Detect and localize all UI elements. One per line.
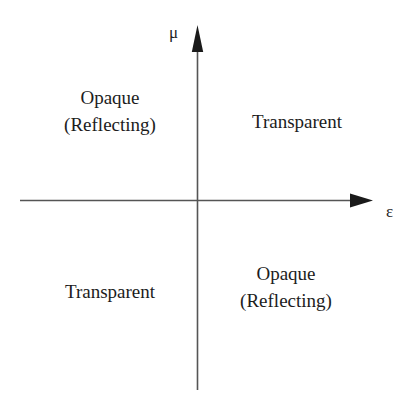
quadrant-label-lower-left: Transparent	[65, 279, 155, 306]
quadrant-label-upper-left-line-1: Opaque	[64, 85, 156, 112]
quadrant-label-upper-left: Opaque (Reflecting)	[64, 85, 156, 139]
quadrant-label-upper-right: Transparent	[252, 109, 342, 136]
axes-group	[0, 0, 415, 406]
mu-axis-label: μ	[169, 24, 178, 41]
mu-axis-arrowhead	[192, 25, 203, 52]
quadrant-label-lower-left-line-1: Transparent	[65, 279, 155, 306]
epsilon-axis-label: ε	[386, 203, 393, 220]
epsilon-axis-arrowhead	[350, 194, 373, 208]
quadrant-label-upper-right-line-1: Transparent	[252, 109, 342, 136]
quadrant-label-lower-right-line-1: Opaque	[240, 261, 332, 288]
quadrant-label-lower-right-line-2: (Reflecting)	[240, 288, 332, 315]
quadrant-label-upper-left-line-2: (Reflecting)	[64, 112, 156, 139]
figure-canvas: μ ε Opaque (Reflecting) Transparent Tran…	[0, 0, 415, 406]
quadrant-label-lower-right: Opaque (Reflecting)	[240, 261, 332, 315]
